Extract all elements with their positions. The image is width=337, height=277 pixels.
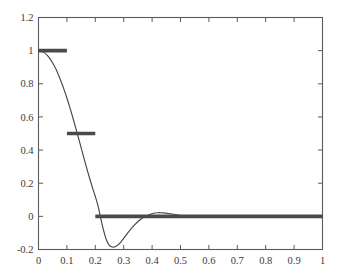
x-tick-label: 0.1 <box>60 255 73 266</box>
plot-canvas: -0.200.20.40.60.811.2 00.10.20.30.40.50.… <box>0 0 337 277</box>
x-tick-label: 0.6 <box>202 255 215 266</box>
figure-container: -0.200.20.40.60.811.2 00.10.20.30.40.50.… <box>0 0 337 277</box>
x-tick-label: 0.8 <box>259 255 272 266</box>
y-tick-label-group: -0.200.20.40.60.811.2 <box>17 12 34 255</box>
x-tick-label: 1 <box>320 255 325 266</box>
y-tick-label: 0.8 <box>20 78 33 89</box>
x-tick-label: 0.2 <box>89 255 102 266</box>
y-tick-label: -0.2 <box>17 244 34 255</box>
x-tick-label: 0.3 <box>117 255 130 266</box>
x-tick-label: 0.7 <box>231 255 244 266</box>
x-tick-label: 0.4 <box>146 255 160 266</box>
y-tick-label: 0.4 <box>20 145 34 156</box>
series-line-quantized-step <box>39 51 323 217</box>
y-tick-label: 0.2 <box>20 178 33 189</box>
y-tick-label: 1 <box>28 45 33 56</box>
x-tick-label: 0 <box>36 255 41 266</box>
y-tick-label: 0 <box>28 211 33 222</box>
x-tick-label-group: 00.10.20.30.40.50.60.70.80.91 <box>36 255 325 266</box>
x-tick-label: 0.5 <box>174 255 187 266</box>
x-tick-label: 0.9 <box>288 255 301 266</box>
y-tick-label: 1.2 <box>20 12 33 23</box>
y-tick-label: 0.6 <box>20 112 33 123</box>
